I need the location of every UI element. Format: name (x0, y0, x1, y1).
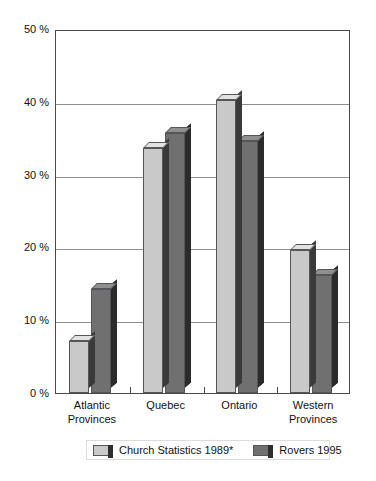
x-axis-label-line: Quebec (129, 398, 203, 412)
bar-side-face (111, 279, 117, 388)
plot-area (55, 30, 350, 394)
bar (69, 341, 89, 393)
x-axis-category-label: Quebec (129, 398, 203, 412)
bar-front-face (216, 100, 236, 393)
bar-front-face (290, 250, 310, 393)
x-axis-label-line: Atlantic (55, 398, 129, 412)
x-axis-category-label: AtlanticProvinces (55, 398, 129, 426)
x-axis-category-label: WesternProvinces (276, 398, 350, 426)
bar (143, 148, 163, 393)
legend-swatch-icon (253, 445, 273, 456)
x-axis-label-line: Provinces (55, 412, 129, 426)
bar-front-face (69, 341, 89, 393)
chart-title-faint (130, 0, 260, 8)
bar (216, 100, 236, 393)
y-axis: 0 %10 %20 %30 %40 %50 % (0, 30, 49, 394)
y-axis-tick-label: 20 % (3, 242, 49, 253)
y-axis-tick-label: 50 % (3, 24, 49, 35)
legend-label: Church Statistics 1989* (119, 444, 233, 456)
bar-front-face (143, 148, 163, 393)
legend-item-0: Church Statistics 1989* (93, 444, 233, 456)
bar-side-face (163, 138, 169, 388)
bar-side-face (332, 265, 338, 388)
x-axis-label-line: Ontario (203, 398, 277, 412)
bar-side-face (310, 240, 316, 388)
bar-group (56, 31, 130, 393)
bar (290, 250, 310, 393)
bar-group (130, 31, 204, 393)
bar-side-face (258, 131, 264, 388)
bar-side-face (236, 90, 242, 388)
legend-swatch-icon (93, 445, 113, 456)
legend-item-1: Rovers 1995 (253, 444, 341, 456)
chart-legend: Church Statistics 1989* Rovers 1995 (86, 440, 330, 460)
y-axis-tick-label: 0 % (3, 388, 49, 399)
y-axis-tick-label: 30 % (3, 170, 49, 181)
x-axis-label-line: Western (276, 398, 350, 412)
y-axis-tick-label: 10 % (3, 315, 49, 326)
x-axis-labels: AtlanticProvincesQuebecOntarioWesternPro… (55, 398, 350, 432)
bar-group (277, 31, 351, 393)
x-axis-label-line: Provinces (276, 412, 350, 426)
grouped-bar-chart: 0 %10 %20 %30 %40 %50 % AtlanticProvince… (0, 0, 376, 481)
bar-side-face (185, 123, 191, 388)
bar-group (204, 31, 278, 393)
legend-label: Rovers 1995 (279, 444, 341, 456)
y-axis-tick-label: 40 % (3, 97, 49, 108)
x-axis-category-label: Ontario (203, 398, 277, 412)
